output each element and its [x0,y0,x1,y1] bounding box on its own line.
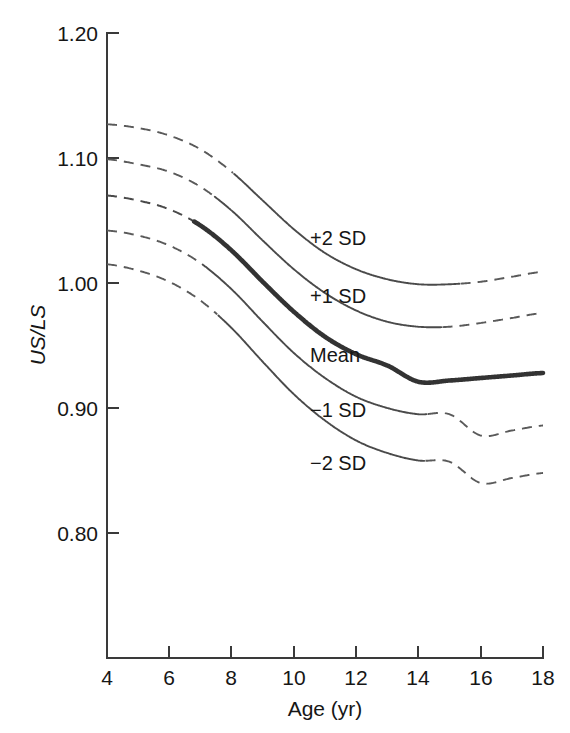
x-tick-label-10: 10 [282,666,305,689]
x-tick-label-4: 4 [101,666,113,689]
curve-2-sd-solid [218,316,424,461]
curve-1-sd-dashed-right [442,313,543,327]
curve-mean-dashed-left [107,196,194,222]
chart-container: 1.20 1.10 1.00 0.90 0.80 4 6 8 10 12 14 … [0,0,570,733]
curve-2-sd-dashed-right [461,272,543,284]
y-tick-label-1.00: 1.00 [57,272,98,295]
x-tick-label-6: 6 [163,666,175,689]
x-tick-label-16: 16 [469,666,492,689]
curve-1-sd-dashed-left [107,231,201,264]
series-labels: +2 SD +1 SD Mean −1 SD −2 SD [310,227,366,474]
series-label-minus-1-sd: −1 SD [310,399,366,421]
series-label-mean: Mean [310,344,360,366]
y-tick-label-1.20: 1.20 [57,22,98,45]
curve-2-sd-dashed-left [107,124,233,173]
curve-1-sd-dashed-left [107,159,214,196]
y-tick-label-0.90: 0.90 [57,397,98,420]
x-tick-label-18: 18 [531,666,554,689]
series-label-plus-2-sd: +2 SD [310,227,366,249]
curve-2-sd-dashed-right [426,460,543,484]
curve-mean-solid [194,222,543,383]
y-tick-label-1.10: 1.10 [57,147,98,170]
x-tick-labels: 4 6 8 10 12 14 16 18 [101,666,555,689]
x-axis-title: Age (yr) [288,697,363,720]
y-axis-title: US/LS [26,305,49,366]
series-label-minus-2-sd: −2 SD [310,452,366,474]
series-label-plus-1-sd: +1 SD [310,285,366,307]
x-tick-label-14: 14 [406,666,430,689]
y-tick-label-0.80: 0.80 [57,522,98,545]
us-ls-growth-chart: 1.20 1.10 1.00 0.90 0.80 4 6 8 10 12 14 … [0,0,570,733]
x-tick-label-12: 12 [344,666,367,689]
y-tick-labels: 1.20 1.10 1.00 0.90 0.80 [57,22,98,545]
x-tick-label-8: 8 [225,666,237,689]
curve-1-sd-dashed-right [428,413,543,436]
curve-2-sd-dashed-left [107,264,217,314]
